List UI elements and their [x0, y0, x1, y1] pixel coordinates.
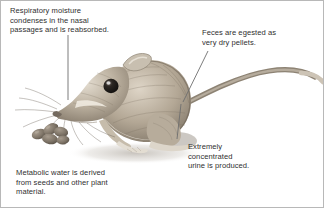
- callout-feces: Feces are egested as very dry pellets.: [202, 28, 312, 47]
- tail: [179, 70, 323, 107]
- seed-pellets: [30, 121, 70, 146]
- figure-container: Respiratory moisture condenses in the na…: [0, 0, 324, 208]
- eye: [103, 79, 118, 93]
- callout-urine: Extremely concentrated urine is produced…: [188, 142, 284, 171]
- callout-metabolic-water: Metabolic water is derived from seeds an…: [16, 168, 148, 197]
- callout-respiratory-moisture: Respiratory moisture condenses in the na…: [10, 6, 150, 35]
- eye-highlight: [106, 81, 110, 85]
